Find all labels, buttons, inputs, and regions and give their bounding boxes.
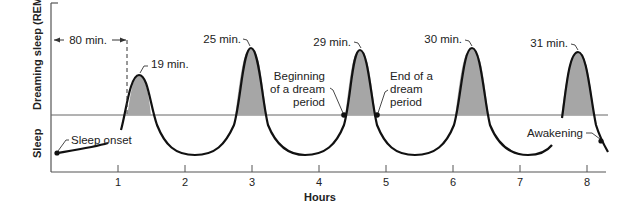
- x-tick-label: 5: [383, 176, 389, 188]
- x-tick-label: 1: [115, 176, 121, 188]
- span-80min-annotation: 80 min.: [54, 34, 127, 115]
- awakening-label: Awakening: [527, 127, 583, 139]
- x-tick-label: 8: [584, 176, 590, 188]
- dream-end-label-line3: period: [390, 96, 422, 108]
- dream-begin-annotation: Beginning of a dream period: [270, 70, 347, 118]
- x-ticks: [118, 165, 587, 172]
- dream-begin-label-line2: of a dream: [270, 83, 325, 95]
- y-axis-title-rem: Dreaming sleep (REM): [31, 0, 43, 110]
- x-tick-label: 4: [316, 176, 322, 188]
- x-tick-label: 7: [517, 176, 523, 188]
- x-tick-label: 2: [182, 176, 188, 188]
- x-axis-title: Hours: [304, 191, 336, 203]
- x-tick-label: 3: [249, 176, 255, 188]
- y-axis-title-sleep: Sleep: [31, 128, 43, 158]
- sleep-onset-label: Sleep onset: [71, 134, 133, 146]
- peak-label-4: 30 min.: [424, 33, 462, 45]
- sleep-cycle-chart: Dreaming sleep (REM) Sleep 1 2 3 4 5 6 7…: [0, 0, 638, 211]
- x-tick-labels: 1 2 3 4 5 6 7 8: [115, 176, 590, 188]
- peak-label-1: 19 min.: [151, 58, 189, 70]
- dream-begin-label-line1: Beginning: [274, 70, 325, 82]
- dream-end-annotation: End of a dream period: [374, 70, 433, 118]
- awakening-annotation: Awakening: [527, 127, 604, 144]
- peak-label-3: 29 min.: [313, 36, 351, 48]
- x-tick-label: 6: [450, 176, 456, 188]
- dream-end-label-line2: dream: [390, 83, 423, 95]
- span-label: 80 min.: [69, 34, 107, 46]
- dream-end-label-line1: End of a: [390, 70, 433, 82]
- dream-begin-label-line3: period: [293, 96, 325, 108]
- peak-label-2: 25 min.: [203, 33, 241, 45]
- peak-label-5: 31 min.: [530, 37, 568, 49]
- rem-shaded-regions: [126, 48, 596, 125]
